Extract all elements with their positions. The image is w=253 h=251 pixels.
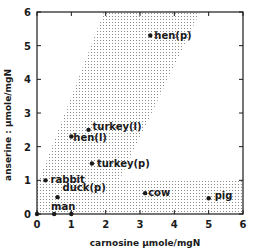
y-tick-label: 0 bbox=[24, 209, 31, 220]
data-point bbox=[55, 195, 59, 199]
data-point bbox=[52, 212, 56, 216]
data-point bbox=[148, 33, 152, 37]
data-point bbox=[35, 212, 39, 216]
point-label: hen(l) bbox=[73, 132, 107, 143]
x-axis-label: carnosine µmole/mgN bbox=[90, 238, 201, 248]
x-tick-label: 2 bbox=[102, 219, 109, 230]
point-label: cow bbox=[148, 187, 170, 198]
y-tick-label: 1 bbox=[24, 175, 31, 186]
x-tick-label: 4 bbox=[171, 219, 178, 230]
point-label: duck(p) bbox=[63, 182, 106, 193]
x-tick-label: 5 bbox=[205, 219, 212, 230]
y-tick-label: 2 bbox=[24, 142, 31, 153]
data-point bbox=[206, 196, 210, 200]
x-tick-label: 1 bbox=[68, 219, 75, 230]
point-label: man bbox=[51, 201, 75, 212]
y-axis-label: anserine : µmole/mgN bbox=[3, 69, 13, 181]
x-tick-label: 3 bbox=[137, 219, 144, 230]
point-label: turkey(p) bbox=[97, 158, 150, 169]
x-tick-label: 6 bbox=[240, 219, 247, 230]
data-point bbox=[43, 178, 47, 182]
data-point bbox=[90, 161, 94, 165]
x-tick-label: 0 bbox=[34, 219, 41, 230]
data-point bbox=[69, 212, 73, 216]
point-label: pig bbox=[215, 190, 233, 201]
data-point bbox=[143, 191, 147, 195]
y-tick-label: 4 bbox=[24, 74, 31, 85]
y-tick-label: 3 bbox=[24, 108, 31, 119]
point-label: turkey(l) bbox=[93, 121, 142, 132]
y-tick-label: 6 bbox=[24, 7, 31, 18]
scatter-chart: 01234560123456 hen(p)turkey(l)hen(l)turk… bbox=[0, 0, 253, 251]
y-tick-label: 5 bbox=[24, 41, 31, 52]
point-label: hen(p) bbox=[154, 30, 191, 41]
